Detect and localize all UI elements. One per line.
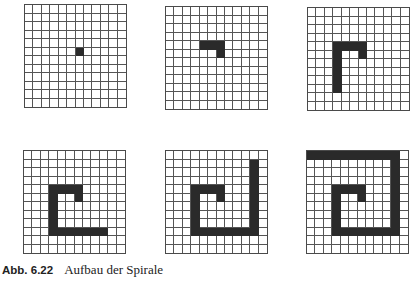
grid-cell [108, 245, 116, 254]
grid-cell [341, 245, 349, 254]
grid-cell [200, 92, 208, 101]
grid-cell [233, 84, 241, 93]
grid-cell [375, 8, 383, 17]
grid-cell [200, 58, 208, 67]
grid-cell [84, 56, 92, 65]
grid-cell [25, 82, 33, 91]
grid-cell [32, 245, 40, 254]
grid-cell [117, 168, 125, 177]
grid-cell [400, 160, 408, 169]
grid-cell [233, 168, 241, 177]
grid-cell [83, 168, 91, 177]
grid-cell [250, 236, 258, 245]
grid-cell [118, 39, 126, 48]
grid-cell [108, 151, 116, 160]
filled-cell [383, 151, 391, 160]
grid-cell [58, 194, 66, 203]
grid-cell [117, 236, 125, 245]
grid-cell [191, 160, 199, 169]
grid-cell [392, 93, 400, 102]
grid-cell [217, 245, 225, 254]
grid-cell [324, 245, 332, 254]
grid-cell [401, 8, 409, 17]
grid-cell [32, 177, 40, 186]
filled-cell [49, 185, 57, 194]
grid-cell [66, 219, 74, 228]
grid-cell [59, 39, 67, 48]
grid-cell [183, 101, 191, 110]
grid-cell [59, 31, 67, 40]
grid-cell [33, 5, 41, 14]
grid-cell [325, 68, 333, 77]
grid-cell [41, 228, 49, 237]
grid-cell [233, 202, 241, 211]
grid-cell [391, 245, 399, 254]
grid-cell [315, 211, 323, 220]
grid-cell [325, 93, 333, 102]
grid-cell [315, 177, 323, 186]
grid-cell [250, 75, 258, 84]
grid-cell [200, 101, 208, 110]
grid-cell [33, 14, 41, 23]
grid-cell [59, 82, 67, 91]
grid-cell [58, 177, 66, 186]
grid-cell [325, 8, 333, 17]
grid-cell [367, 8, 375, 17]
grid-cell [83, 236, 91, 245]
grid-cell [32, 194, 40, 203]
grid-cell [50, 73, 58, 82]
grid-cell [117, 219, 125, 228]
grid-cell [41, 160, 49, 169]
grid-cell [166, 177, 174, 186]
grid-cell [259, 101, 267, 110]
grid-cell [174, 75, 182, 84]
grid-cell [33, 31, 41, 40]
filled-cell [332, 211, 340, 220]
grid-cell [75, 177, 83, 186]
grid-cell [75, 160, 83, 169]
grid-cell [118, 73, 126, 82]
grid-cell [217, 236, 225, 245]
filled-cell [49, 202, 57, 211]
filled-cell [342, 42, 350, 51]
grid-cell [383, 202, 391, 211]
grid-cell [83, 219, 91, 228]
grid-cell [50, 22, 58, 31]
grid-cell [174, 160, 182, 169]
grid-cell [307, 168, 315, 177]
grid-cell [316, 51, 324, 60]
grid-cell [191, 101, 199, 110]
grid-cell [24, 151, 32, 160]
grid-cell [83, 211, 91, 220]
grid-cell [200, 84, 208, 93]
grid-cell [191, 92, 199, 101]
filled-cell [208, 228, 216, 237]
grid-cell [183, 236, 191, 245]
grid-cell [75, 202, 83, 211]
grid-cell [166, 16, 174, 25]
spiral-step-4-grid [23, 150, 126, 254]
grid-cell [349, 202, 357, 211]
grid-cell [174, 24, 182, 33]
grid-cell [108, 202, 116, 211]
filled-cell [250, 185, 258, 194]
grid-cell [76, 31, 84, 40]
grid-cell [341, 194, 349, 203]
grid-cell [117, 151, 125, 160]
grid-cell [217, 219, 225, 228]
grid-cell [333, 34, 341, 43]
grid-cell [76, 5, 84, 14]
grid-cell [174, 7, 182, 16]
grid-cell [50, 48, 58, 57]
grid-cell [166, 33, 174, 42]
grid-cell [67, 48, 75, 57]
grid-cell [341, 177, 349, 186]
grid-cell [259, 219, 267, 228]
grid-cell [50, 99, 58, 108]
grid-cell [108, 228, 116, 237]
grid-cell [58, 211, 66, 220]
grid-cell [233, 177, 241, 186]
grid-cell [308, 42, 316, 51]
grid-cell [109, 31, 117, 40]
grid-cell [76, 22, 84, 31]
